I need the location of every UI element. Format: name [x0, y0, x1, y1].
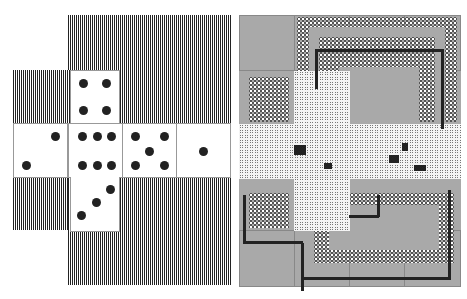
die-face-bottom-3 — [70, 177, 120, 232]
left-panel — [0, 0, 235, 299]
traced-path — [301, 243, 304, 291]
pip — [51, 132, 60, 141]
die-face-back-1 — [176, 123, 231, 178]
noise-blob — [389, 155, 399, 163]
noise-blob — [324, 163, 332, 169]
pip — [160, 161, 169, 170]
pip — [102, 106, 111, 115]
traced-path — [243, 195, 246, 243]
traced-path — [301, 277, 451, 280]
pip — [107, 132, 116, 141]
right-panel — [239, 15, 461, 287]
noise-blob — [294, 145, 306, 155]
pip — [79, 106, 88, 115]
pip — [102, 79, 111, 88]
pip — [92, 198, 101, 207]
traced-path — [448, 190, 451, 280]
grid-cell — [239, 15, 295, 71]
pip — [79, 79, 88, 88]
pip — [93, 161, 102, 170]
pip — [199, 147, 208, 156]
die-face-top-4 — [70, 70, 120, 124]
pip — [93, 132, 102, 141]
ring-gap — [339, 67, 419, 122]
pip — [145, 147, 154, 156]
noise-region-horizontal — [239, 124, 461, 179]
pip — [106, 185, 115, 194]
pip — [22, 161, 31, 170]
pip — [77, 211, 86, 220]
pip — [78, 132, 87, 141]
noise-blob — [414, 165, 426, 171]
die-face-front-6 — [68, 123, 123, 178]
pip — [78, 161, 87, 170]
pip — [131, 132, 140, 141]
pip — [107, 161, 116, 170]
traced-path — [377, 195, 380, 217]
traced-path — [441, 49, 444, 129]
dot-ring-left — [249, 77, 289, 122]
stripe-background-bottom-left — [13, 177, 73, 230]
die-face-left-2 — [13, 123, 68, 178]
traced-path — [349, 215, 379, 218]
traced-path — [315, 49, 318, 89]
grid-cell — [239, 230, 295, 287]
pip — [131, 161, 140, 170]
pip — [160, 132, 169, 141]
die-face-right-5 — [122, 123, 177, 178]
traced-path — [243, 241, 303, 244]
stripe-background-left — [13, 70, 73, 125]
dot-ring-bottom — [249, 193, 289, 228]
noise-blob — [402, 143, 408, 151]
traced-path — [315, 49, 444, 52]
